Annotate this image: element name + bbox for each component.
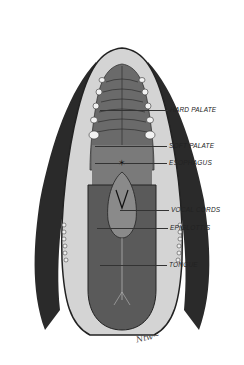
vocal-cords-leader	[120, 210, 169, 211]
epiglottis-leader	[97, 228, 168, 229]
esophagus-leader	[95, 163, 167, 164]
label-esophagus: ESOPHAGUS	[169, 160, 212, 167]
tongue-leader	[100, 265, 167, 266]
label-hard-palate: HARD PALATE	[170, 107, 216, 114]
label-tongue: TONGUE	[169, 262, 198, 269]
label-epiglottis: EPIGLOTTIS	[170, 225, 210, 232]
label-vocal-cords: VOCAL CORDS	[171, 207, 220, 214]
hard-palate-leader	[100, 110, 168, 111]
label-soft-palate: SOFT PALATE	[169, 143, 214, 150]
oral-anatomy-illustration: ✶	[0, 0, 244, 365]
soft-palate-leader	[95, 146, 167, 147]
